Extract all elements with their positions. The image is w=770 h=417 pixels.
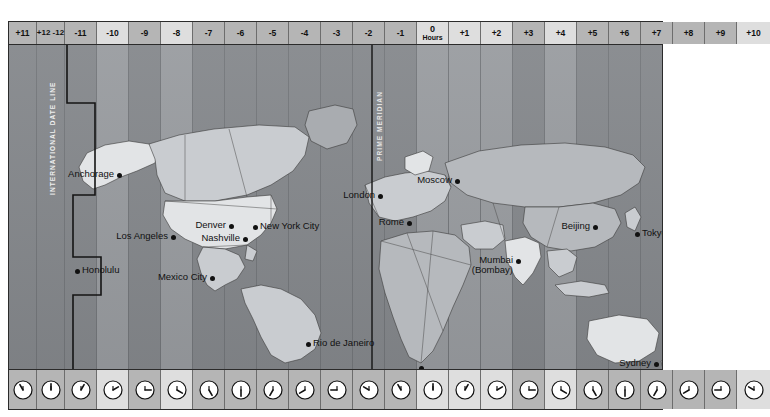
city-dot (378, 194, 383, 199)
zone-offset-label: +9 (716, 29, 726, 38)
zone-header-cell[interactable]: -2 (353, 22, 385, 44)
zone-header-cell[interactable]: +10 (737, 22, 770, 44)
clock-icon[interactable] (673, 370, 705, 409)
zone-header-cell[interactable]: -11 (65, 22, 97, 44)
clock-icon[interactable] (353, 370, 385, 409)
city-dot (210, 276, 215, 281)
zone-header-cell[interactable]: -10 (97, 22, 129, 44)
zone-offset-label: +10 (746, 29, 760, 38)
clock-icon[interactable] (737, 370, 770, 409)
zone-header-cell[interactable]: -5 (257, 22, 289, 44)
city-dot (593, 225, 598, 230)
clock-icon[interactable] (705, 370, 737, 409)
clock-icon[interactable] (129, 370, 161, 409)
clock-icon[interactable] (609, 370, 641, 409)
city-label: Moscow (417, 175, 452, 185)
clock-icon[interactable] (161, 370, 193, 409)
zone-offset-label: +11 (16, 29, 30, 38)
zone-header-cell[interactable]: +2 (481, 22, 513, 44)
city-dot (253, 225, 258, 230)
zone-header-cell[interactable]: -9 (129, 22, 161, 44)
city-label: Beijing (561, 221, 590, 231)
city-dot (117, 173, 122, 178)
city-dot (635, 232, 640, 237)
city-label: Tokyo (642, 228, 663, 238)
zone-header-cell[interactable]: +11 (9, 22, 37, 44)
clock-icon[interactable] (545, 370, 577, 409)
zone-header-cell[interactable]: +6 (609, 22, 641, 44)
clock-icon[interactable] (577, 370, 609, 409)
zone-header-cell[interactable]: -6 (225, 22, 257, 44)
clock-icon[interactable] (257, 370, 289, 409)
city-dot (516, 259, 521, 264)
zone-offset-label: 0 (430, 25, 435, 34)
zone-offset-label: +7 (652, 29, 662, 38)
city-dot (654, 362, 659, 367)
clock-icon[interactable] (225, 370, 257, 409)
city-label: Rome (379, 217, 404, 227)
clock-icon[interactable] (65, 370, 97, 409)
city-label: Nashville (201, 233, 240, 243)
zone-header-cell[interactable]: +4 (545, 22, 577, 44)
zone-header-cell[interactable]: +5 (577, 22, 609, 44)
map-canvas: INTERNATIONAL DATE LINE PRIME MERIDIAN A… (8, 45, 663, 370)
clock-icon[interactable] (37, 370, 65, 409)
international-date-line-label: INTERNATIONAL DATE LINE (49, 82, 56, 195)
clock-icon[interactable] (97, 370, 129, 409)
city-label: Rio de Janeiro (313, 338, 374, 348)
city-label: Denver (195, 220, 226, 230)
zone-header-cell[interactable]: +12 -12 (37, 22, 65, 44)
city-label: Mexico City (158, 272, 207, 282)
zone-header-cell[interactable]: -7 (193, 22, 225, 44)
city-dot (407, 221, 412, 226)
city-label: London (343, 190, 375, 200)
zone-offset-label: +1 (460, 29, 470, 38)
zone-offset-label: -6 (237, 29, 245, 38)
time-zone-header-strip: +11+12 -12-11-10-9-8-7-6-5-4-3-2-10Hours… (8, 21, 663, 45)
zone-header-cell[interactable]: +3 (513, 22, 545, 44)
city-label: Los Angeles (116, 231, 168, 241)
clock-icon[interactable] (417, 370, 449, 409)
zone-offset-label: -10 (106, 29, 118, 38)
zone-offset-label: +8 (684, 29, 694, 38)
zone-header-cell[interactable]: -1 (385, 22, 417, 44)
zone-header-cell[interactable]: +1 (449, 22, 481, 44)
zone-offset-label: +3 (524, 29, 534, 38)
city-label-line2: (Bombay) (472, 265, 513, 275)
zone-hours-sublabel: Hours (422, 34, 442, 41)
continent-outlines (9, 45, 663, 370)
city-dot (75, 269, 80, 274)
zone-offset-label: -5 (269, 29, 277, 38)
city-dot (243, 237, 248, 242)
clock-icon[interactable] (481, 370, 513, 409)
prime-meridian-label: PRIME MERIDIAN (376, 91, 383, 161)
clock-icon[interactable] (513, 370, 545, 409)
city-label: Anchorage (68, 169, 114, 179)
zone-header-cell[interactable]: -8 (161, 22, 193, 44)
zone-offset-label: -9 (141, 29, 149, 38)
city-dot (455, 179, 460, 184)
clock-icon[interactable] (321, 370, 353, 409)
clock-strip (8, 370, 663, 410)
zone-offset-label: +6 (620, 29, 630, 38)
clock-icon[interactable] (9, 370, 37, 409)
zone-header-cell[interactable]: -3 (321, 22, 353, 44)
zone-header-cell[interactable]: +9 (705, 22, 737, 44)
zone-header-cell[interactable]: 0Hours (417, 22, 449, 44)
zone-offset-label: -11 (75, 29, 87, 38)
clock-icon[interactable] (641, 370, 673, 409)
zone-header-cell[interactable]: +7 (641, 22, 673, 44)
clock-icon[interactable] (193, 370, 225, 409)
city-label: Mumbai(Bombay) (472, 255, 513, 275)
clock-icon[interactable] (289, 370, 321, 409)
clock-icon[interactable] (385, 370, 417, 409)
zone-offset-label: +12 -12 (37, 29, 64, 37)
city-label: Sydney (619, 358, 651, 368)
zone-offset-label: +2 (492, 29, 502, 38)
zone-offset-label: -7 (205, 29, 213, 38)
clock-icon[interactable] (449, 370, 481, 409)
zone-header-cell[interactable]: +8 (673, 22, 705, 44)
zone-header-cell[interactable]: -4 (289, 22, 321, 44)
zone-offset-label: +5 (588, 29, 598, 38)
